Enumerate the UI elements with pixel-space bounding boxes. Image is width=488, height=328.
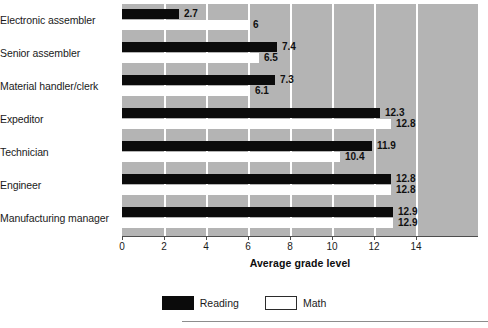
x-tick-mark-12 bbox=[374, 236, 375, 240]
bar-value-math-engineer: 12.8 bbox=[396, 185, 415, 195]
legend-label-reading: Reading bbox=[200, 297, 239, 309]
bar-math-electronic-assembler[interactable] bbox=[122, 20, 248, 30]
bar-reading-senior-assembler[interactable] bbox=[122, 42, 277, 52]
bar-group-technician: 11.9 10.4 bbox=[122, 141, 478, 163]
bar-math-manufacturing-manager[interactable] bbox=[122, 218, 393, 228]
bar-value-reading-manufacturing-manager: 12.9 bbox=[398, 207, 417, 217]
category-label-expeditor: Expeditor bbox=[0, 113, 114, 125]
legend-swatch-reading-icon bbox=[162, 296, 194, 310]
bar-group-manufacturing-manager: 12.9 12.9 bbox=[122, 207, 478, 229]
x-tick-mark-10 bbox=[332, 236, 333, 240]
category-label-technician: Technician bbox=[0, 146, 114, 158]
x-tick-label-8: 8 bbox=[287, 241, 293, 252]
bar-value-reading-senior-assembler: 7.4 bbox=[282, 42, 296, 52]
x-axis-line bbox=[122, 236, 478, 237]
bar-value-math-senior-assembler: 6.5 bbox=[264, 53, 278, 63]
chart-legend: Reading Math bbox=[0, 292, 488, 314]
bar-group-electronic-assembler: 2.7 6 bbox=[122, 9, 478, 31]
bar-math-technician[interactable] bbox=[122, 152, 340, 162]
x-tick-label-12: 12 bbox=[368, 241, 379, 252]
category-label-electronic-assembler: Electronic assembler bbox=[0, 14, 114, 26]
bar-reading-engineer[interactable] bbox=[122, 174, 391, 184]
bar-chart-figure: Electronic assembler Senior assembler Ma… bbox=[0, 0, 488, 328]
bar-value-math-material-handler-clerk: 6.1 bbox=[255, 86, 269, 96]
bar-group-expeditor: 12.3 12.8 bbox=[122, 108, 478, 130]
x-tick-mark-4 bbox=[206, 236, 207, 240]
x-tick-label-10: 10 bbox=[326, 241, 337, 252]
category-label-manufacturing-manager: Manufacturing manager bbox=[0, 212, 114, 224]
legend-item-reading[interactable]: Reading bbox=[162, 296, 239, 310]
bar-math-senior-assembler[interactable] bbox=[122, 53, 259, 63]
legend-label-math: Math bbox=[303, 297, 326, 309]
x-tick-label-14: 14 bbox=[410, 241, 421, 252]
x-tick-label-4: 4 bbox=[203, 241, 209, 252]
bottom-divider bbox=[182, 321, 488, 322]
bar-value-reading-expeditor: 12.3 bbox=[385, 108, 404, 118]
category-label-material-handler-clerk: Material handler/clerk bbox=[0, 80, 114, 92]
bar-group-senior-assembler: 7.4 6.5 bbox=[122, 42, 478, 64]
bar-value-reading-electronic-assembler: 2.7 bbox=[184, 9, 198, 19]
bar-reading-expeditor[interactable] bbox=[122, 108, 380, 118]
bar-reading-electronic-assembler[interactable] bbox=[122, 9, 179, 19]
category-axis: Electronic assembler Senior assembler Ma… bbox=[0, 4, 118, 236]
bar-value-reading-material-handler-clerk: 7.3 bbox=[280, 75, 294, 85]
bar-value-math-electronic-assembler: 6 bbox=[253, 20, 259, 30]
x-tick-mark-0 bbox=[122, 236, 123, 240]
bar-value-reading-technician: 11.9 bbox=[377, 141, 396, 151]
x-tick-mark-6 bbox=[248, 236, 249, 240]
bar-group-engineer: 12.8 12.8 bbox=[122, 174, 478, 196]
x-tick-label-0: 0 bbox=[119, 241, 125, 252]
category-label-engineer: Engineer bbox=[0, 179, 114, 191]
x-tick-label-2: 2 bbox=[161, 241, 167, 252]
bar-math-engineer[interactable] bbox=[122, 185, 391, 195]
bar-value-math-manufacturing-manager: 12.9 bbox=[398, 218, 417, 228]
bar-reading-technician[interactable] bbox=[122, 141, 372, 151]
bar-reading-manufacturing-manager[interactable] bbox=[122, 207, 393, 217]
legend-swatch-math-icon bbox=[265, 296, 297, 310]
category-label-senior-assembler: Senior assembler bbox=[0, 47, 114, 59]
bar-group-material-handler-clerk: 7.3 6.1 bbox=[122, 75, 478, 97]
legend-item-math[interactable]: Math bbox=[265, 296, 326, 310]
bar-math-expeditor[interactable] bbox=[122, 119, 391, 129]
x-tick-mark-8 bbox=[290, 236, 291, 240]
bar-value-math-expeditor: 12.8 bbox=[396, 119, 415, 129]
bar-reading-material-handler-clerk[interactable] bbox=[122, 75, 275, 85]
x-axis: 0 2 4 6 8 10 12 14 bbox=[122, 236, 478, 256]
x-tick-label-6: 6 bbox=[245, 241, 251, 252]
bar-math-material-handler-clerk[interactable] bbox=[122, 86, 250, 96]
bar-value-math-technician: 10.4 bbox=[345, 152, 364, 162]
x-tick-mark-14 bbox=[416, 236, 417, 240]
x-tick-mark-2 bbox=[164, 236, 165, 240]
plot-area: 2.7 6 7.4 6.5 7.3 6.1 12.3 12.8 11.9 10 bbox=[122, 4, 478, 236]
x-axis-title: Average grade level bbox=[122, 257, 478, 269]
bar-value-reading-engineer: 12.8 bbox=[396, 174, 415, 184]
